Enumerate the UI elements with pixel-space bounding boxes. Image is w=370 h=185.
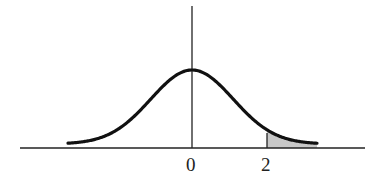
normal-curve-diagram xyxy=(0,0,370,185)
tick-label-0: 0 xyxy=(186,155,196,174)
tick-label-2: 2 xyxy=(261,155,271,174)
